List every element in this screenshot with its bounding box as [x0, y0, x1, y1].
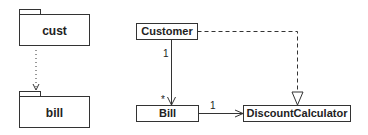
package-bill-label: bill: [19, 107, 90, 119]
package-tab: [20, 92, 41, 97]
multiplicity-customer-end: 1: [163, 49, 169, 59]
package-dependency-arrow: [33, 50, 39, 90]
package-tab: [20, 10, 41, 15]
multiplicity-bill-end: *: [161, 95, 165, 105]
multiplicity-bill-discount-end: 1: [210, 101, 216, 111]
hollow-triangle-arrowhead: [292, 92, 303, 105]
class-discountcalculator-label: DiscountCalculator: [243, 108, 351, 119]
class-customer-label: Customer: [136, 26, 198, 37]
realization-customer-discountcalculator: [198, 32, 304, 106]
class-bill-label: Bill: [136, 108, 199, 119]
association-bill-discountcalculator: [199, 110, 244, 117]
package-cust-label: cust: [19, 25, 90, 37]
